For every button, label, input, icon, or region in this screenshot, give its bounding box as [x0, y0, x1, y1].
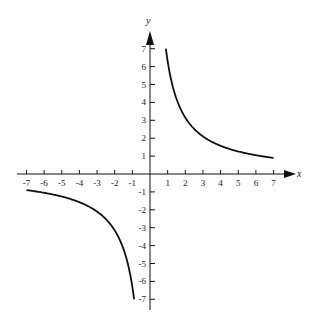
y-tick-label: -4 [139, 241, 147, 251]
hyperbola-chart: -7-6-5-4-3-2-11234567-7-6-5-4-3-2-112345… [0, 0, 314, 325]
y-axis-arrow-icon [146, 31, 154, 45]
hyperbola-branch-quadrant-3 [26, 190, 134, 299]
y-tick-label: 6 [142, 62, 147, 72]
x-tick-label: 1 [165, 178, 170, 188]
y-tick-label: 7 [142, 44, 147, 54]
x-tick-label: 7 [271, 178, 276, 188]
y-tick-label: 4 [142, 97, 147, 107]
x-axis-label: x [296, 168, 302, 179]
x-tick-label: -5 [58, 178, 66, 188]
y-tick-label: -6 [139, 276, 147, 286]
hyperbola-branch-quadrant-1 [166, 49, 274, 158]
x-tick-label: 6 [254, 178, 259, 188]
x-tick-label: -3 [93, 178, 101, 188]
x-axis-arrow-icon [284, 170, 296, 178]
y-tick-label: 3 [142, 115, 147, 125]
x-tick-label: -4 [76, 178, 84, 188]
y-tick-label: -1 [139, 187, 147, 197]
x-tick-label: -1 [129, 178, 137, 188]
y-tick-label: -3 [139, 223, 147, 233]
y-tick-label: -2 [139, 205, 147, 215]
x-tick-label: 5 [236, 178, 241, 188]
y-tick-label: 5 [142, 80, 147, 90]
y-tick-label: 2 [142, 133, 147, 143]
y-tick-label: -5 [139, 259, 147, 269]
y-axis-label: y [145, 15, 151, 26]
x-tick-label: -6 [40, 178, 48, 188]
x-tick-label: 4 [218, 178, 223, 188]
x-tick-label: -7 [23, 178, 31, 188]
axes [17, 31, 296, 310]
y-tick-label: 1 [142, 151, 147, 161]
x-tick-label: 3 [201, 178, 206, 188]
x-tick-label: 2 [183, 178, 188, 188]
x-tick-label: -2 [111, 178, 119, 188]
y-tick-label: -7 [139, 294, 147, 304]
